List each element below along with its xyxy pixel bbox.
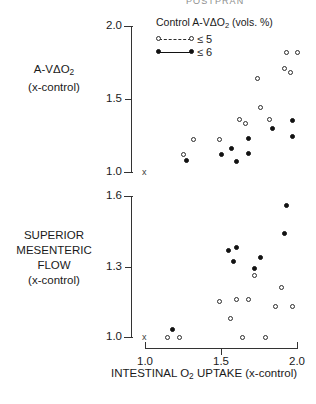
legend-key-open-circle-dashed-icon <box>156 34 194 45</box>
bottom-panel-data-point-open <box>252 273 257 278</box>
bottom-panel-data-point-open <box>217 299 222 304</box>
top-panel-data-point-filled <box>234 159 239 164</box>
bottom-panel-data-point-filled <box>231 259 236 264</box>
x-axis-caption: INTESTINAL O2 UPTAKE (x-control) <box>96 366 312 384</box>
top-panel-data-point-open <box>267 117 272 122</box>
top-panel-y-axis-label-subscript: 2 <box>70 68 75 77</box>
bottom-panel-data-point-filled <box>234 245 239 250</box>
bottom-panel-y-tick-label-1-6: 1.6 <box>94 190 122 202</box>
x-tick-2-0 <box>297 342 298 349</box>
top-panel-y-axis-label-line1: A-VΔO2 <box>2 62 106 80</box>
top-panel-data-point-open <box>243 121 248 126</box>
top-panel-data-point-filled <box>270 126 275 131</box>
bottom-panel-y-axis-spine <box>131 196 132 337</box>
top-panel-data-point-open <box>282 66 287 71</box>
top-panel-data-point-open <box>181 152 186 157</box>
bottom-panel-data-point-open <box>246 297 251 302</box>
legend-label-le6: ≤ 6 <box>197 46 212 59</box>
bottom-panel-data-point-filled <box>170 327 175 332</box>
bottom-panel-data-point-open <box>240 335 245 340</box>
top-panel-origin-x-marker: x <box>142 168 147 177</box>
top-panel-data-point-open <box>255 76 260 81</box>
bottom-panel-y-tick-label-1-0: 1.0 <box>94 331 122 343</box>
bottom-panel-data-point-open <box>177 335 182 340</box>
top-panel-data-point-filled <box>219 152 224 157</box>
bottom-panel-data-point-filled <box>258 255 263 260</box>
legend-title: Control A-VΔO2 (vols. %) <box>156 16 273 32</box>
figure-container: POSTPRAN A-VΔO2 (x-control) SUPERIOR MES… <box>0 0 316 404</box>
top-panel-scatter-points <box>0 0 316 404</box>
top-panel-y-axis-spine <box>131 26 132 172</box>
bottom-panel-data-point-filled <box>282 231 287 236</box>
bottom-panel-data-point-open <box>263 335 268 340</box>
bottom-panel-data-point-open <box>165 335 170 340</box>
bottom-panel-data-point-open <box>273 304 278 309</box>
bottom-panel-y-axis-label-line4: (x-control) <box>2 273 106 288</box>
bottom-panel-data-point-open <box>228 316 233 321</box>
top-panel-data-point-open <box>217 137 222 142</box>
top-panel-data-point-filled <box>229 146 234 151</box>
top-panel-data-point-open <box>295 50 300 55</box>
legend-entry-le6: ≤ 6 <box>156 46 273 59</box>
top-panel-y-axis-label-line2: (x-control) <box>2 80 106 95</box>
bottom-panel-y-axis-label-line1: SUPERIOR <box>2 228 106 243</box>
bottom-panel-data-point-filled <box>284 203 289 208</box>
top-panel-y-tick-1-0 <box>124 172 133 173</box>
bottom-panel-y-axis-label: SUPERIOR MESENTERIC FLOW (x-control) <box>2 228 106 288</box>
legend-label-le5: ≤ 5 <box>197 33 212 46</box>
bottom-panel-y-tick-1-0 <box>124 337 133 338</box>
top-panel-data-point-open <box>288 70 293 75</box>
bottom-panel-data-point-open <box>290 304 295 309</box>
top-panel-data-point-open <box>237 117 242 122</box>
bottom-panel-origin-x-marker: x <box>142 333 147 342</box>
bottom-panel-data-point-filled <box>226 248 231 253</box>
top-panel-data-point-filled <box>246 151 251 156</box>
top-panel-data-point-filled <box>184 158 189 163</box>
x-tick-1-5 <box>221 348 222 355</box>
top-panel-data-point-filled <box>290 118 295 123</box>
bottom-panel-y-axis-label-line2: MESENTERIC <box>2 243 106 258</box>
top-panel-data-point-filled <box>246 136 251 141</box>
legend: Control A-VΔO2 (vols. %) ≤ 5 ≤ 6 <box>156 16 273 59</box>
bottom-panel-data-point-open <box>234 297 239 302</box>
x-axis-spine <box>145 348 297 349</box>
bottom-panel-data-point-filled <box>252 266 257 271</box>
legend-key-filled-circle-solid-icon <box>156 47 194 58</box>
top-panel-y-tick-label-2-0: 2.0 <box>94 20 122 32</box>
running-head: POSTPRAN <box>186 0 306 5</box>
legend-entry-le5: ≤ 5 <box>156 33 273 46</box>
legend-title-subscript: 2 <box>225 21 229 30</box>
x-axis-caption-line2: (x-control) <box>245 367 297 379</box>
top-panel-data-point-filled <box>290 134 295 139</box>
top-panel-y-tick-label-1-0: 1.0 <box>94 166 122 178</box>
bottom-panel-scatter-points <box>0 0 316 404</box>
top-panel-y-axis-label: A-VΔO2 (x-control) <box>2 62 106 95</box>
bottom-panel-data-point-open <box>279 285 284 290</box>
bottom-panel-y-axis-label-line3: FLOW <box>2 258 106 273</box>
top-panel-data-point-open <box>258 105 263 110</box>
top-panel-data-point-open <box>284 50 289 55</box>
top-panel-data-point-open <box>191 137 196 142</box>
x-axis-caption-line1: INTESTINAL O2 UPTAKE <box>111 367 242 379</box>
axis-ticks-layer: 1.01.52.01.01.31.61.01.52.0 <box>0 0 316 404</box>
